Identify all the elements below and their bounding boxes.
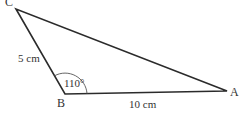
side-label-ab: 10 cm [129,98,157,110]
triangle-diagram: C B A 5 cm 10 cm 110° [0,0,246,122]
vertex-label-b: B [57,96,65,110]
angle-label-b: 110° [64,77,85,89]
vertex-label-c: C [5,0,13,9]
vertex-label-a: A [230,85,239,99]
triangle-abc [16,9,227,94]
side-label-bc: 5 cm [18,52,40,64]
